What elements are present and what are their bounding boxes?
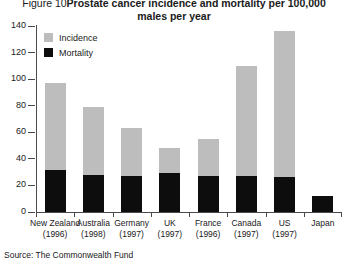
bar-segment-mortality xyxy=(198,176,219,212)
bar-group xyxy=(36,26,342,212)
stacked-bar[interactable] xyxy=(83,26,104,212)
stacked-bar[interactable] xyxy=(274,26,295,212)
figure-title: Figure 10Prostate cancer incidence and m… xyxy=(4,0,344,22)
y-tick-mark xyxy=(28,26,35,27)
stacked-bar[interactable] xyxy=(236,26,257,212)
stacked-bar[interactable] xyxy=(198,26,219,212)
y-tick-mark xyxy=(28,79,35,80)
x-separator-tick xyxy=(36,213,37,217)
y-tick-label: 60 xyxy=(16,126,26,136)
stacked-bar[interactable] xyxy=(159,26,180,212)
y-tick-label: 20 xyxy=(16,179,26,189)
x-category-japan: Japan xyxy=(298,218,348,229)
stacked-bar[interactable] xyxy=(45,26,66,212)
x-separator-tick xyxy=(74,213,75,217)
title-text-line-1: Prostate cancer incidence and mortality … xyxy=(67,0,326,9)
x-separator-tick xyxy=(341,213,342,217)
y-tick-label: 100 xyxy=(11,73,26,83)
y-tick-label: 0 xyxy=(21,206,26,216)
title-text-line-2: males per year xyxy=(4,10,344,23)
y-tick-mark xyxy=(28,132,35,133)
stacked-bar[interactable] xyxy=(121,26,142,212)
bar-slot[interactable] xyxy=(236,26,257,212)
x-separator-tick xyxy=(227,213,228,217)
y-tick-label: 80 xyxy=(16,100,26,110)
x-category-year: (1997) xyxy=(260,229,310,240)
figure-container: Figure 10Prostate cancer incidence and m… xyxy=(0,0,348,269)
bar-segment-mortality xyxy=(45,170,66,213)
bar-segment-mortality xyxy=(274,177,295,212)
y-tick-label: 40 xyxy=(16,153,26,163)
y-tick-label: 120 xyxy=(11,47,26,57)
x-separator-tick xyxy=(189,213,190,217)
x-separator-tick xyxy=(304,213,305,217)
x-separator-tick xyxy=(113,213,114,217)
source-note: Source: The Commonwealth Fund xyxy=(4,250,133,260)
plot-area: 020406080100120140 xyxy=(36,26,342,213)
figure-number: Figure 10 xyxy=(22,0,66,9)
bar-segment-mortality xyxy=(312,196,333,212)
bar-slot[interactable] xyxy=(83,26,104,212)
bar-segment-mortality xyxy=(83,175,104,212)
y-tick-label: 140 xyxy=(11,20,26,30)
title-line-1: Figure 10Prostate cancer incidence and m… xyxy=(4,0,344,10)
x-separator-tick xyxy=(151,213,152,217)
bar-slot[interactable] xyxy=(159,26,180,212)
y-tick-mark xyxy=(28,185,35,186)
bar-slot[interactable] xyxy=(121,26,142,212)
bar-segment-mortality xyxy=(236,176,257,212)
x-category-name: Japan xyxy=(298,218,348,229)
x-axis-labels: New Zealand(1996)Australia(1998)Germany(… xyxy=(36,218,342,244)
bar-slot[interactable] xyxy=(312,26,333,212)
bar-segment-mortality xyxy=(121,176,142,212)
bar-slot[interactable] xyxy=(274,26,295,212)
x-separator-tick xyxy=(266,213,267,217)
y-tick-mark xyxy=(28,105,35,106)
bar-slot[interactable] xyxy=(198,26,219,212)
y-tick-mark xyxy=(28,52,35,53)
stacked-bar[interactable] xyxy=(312,26,333,212)
y-tick-mark xyxy=(28,158,35,159)
bar-slot[interactable] xyxy=(45,26,66,212)
bar-segment-mortality xyxy=(159,173,180,212)
y-tick-mark xyxy=(28,212,35,213)
